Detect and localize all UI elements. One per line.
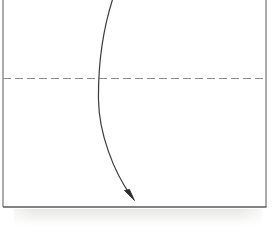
paper-bottom-shadow <box>14 209 262 229</box>
page-background <box>0 0 272 232</box>
drawing-surface <box>0 0 272 232</box>
figure-canvas: Scanned line drawing: rectangular frame … <box>0 0 272 232</box>
